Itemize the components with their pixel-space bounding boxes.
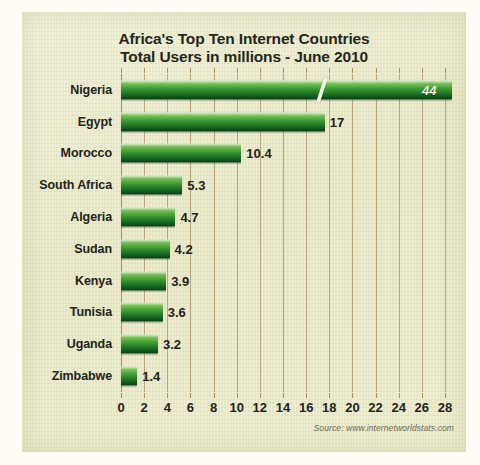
value-label-south-africa: 5.3 <box>187 178 205 193</box>
tick-bottom-0 <box>121 393 122 398</box>
bar-tunisia[interactable] <box>121 303 163 322</box>
bar-row: South Africa5.3 <box>121 169 445 201</box>
x-tick-label-10: 10 <box>229 400 243 415</box>
value-label-zimbabwe: 1.4 <box>142 369 160 384</box>
tick-bottom-16 <box>306 393 307 398</box>
bar-row: Tunisia3.6 <box>121 297 445 329</box>
tick-bottom-24 <box>399 393 400 398</box>
x-axis-tick-labels: 0246810121416182022242628 <box>121 400 445 418</box>
value-label-sudan: 4.2 <box>175 241 193 256</box>
x-tick-label-26: 26 <box>415 400 429 415</box>
bar-algeria[interactable] <box>121 208 175 227</box>
bar-row: Egypt17 <box>121 106 445 138</box>
category-label-sudan: Sudan <box>74 242 112 256</box>
tick-top-4 <box>167 68 168 73</box>
bar-row: Uganda3.2 <box>121 328 445 360</box>
category-label-morocco: Morocco <box>61 146 112 160</box>
bar-row: Kenya3.9 <box>121 265 445 297</box>
category-label-nigeria: Nigeria <box>70 83 112 97</box>
x-tick-label-28: 28 <box>438 400 452 415</box>
category-label-egypt: Egypt <box>78 115 112 129</box>
plot-area: Nigeria44Egypt17Morocco10.4South Africa5… <box>121 74 445 392</box>
x-tick-label-8: 8 <box>210 400 217 415</box>
tick-top-6 <box>190 68 191 73</box>
bar-row: Zimbabwe1.4 <box>121 360 445 392</box>
value-label-kenya: 3.9 <box>171 273 189 288</box>
category-label-uganda: Uganda <box>67 337 112 351</box>
chart-panel: Africa's Top Ten Internet Countries Tota… <box>22 12 466 452</box>
source-note: Source: www.internetworldstats.com <box>314 423 454 433</box>
x-tick-label-0: 0 <box>117 400 124 415</box>
chart-title: Africa's Top Ten Internet Countries Tota… <box>22 30 466 66</box>
category-label-kenya: Kenya <box>75 274 112 288</box>
tick-bottom-4 <box>167 393 168 398</box>
x-tick-label-16: 16 <box>299 400 313 415</box>
tick-top-20 <box>352 68 353 73</box>
bar-egypt[interactable] <box>121 112 325 131</box>
tick-top-16 <box>306 68 307 73</box>
category-label-south-africa: South Africa <box>39 178 112 192</box>
bar-row: Nigeria44 <box>121 74 445 106</box>
bar-zimbabwe[interactable] <box>121 367 137 386</box>
tick-top-22 <box>376 68 377 73</box>
tick-bottom-6 <box>190 393 191 398</box>
chart-title-line-1: Africa's Top Ten Internet Countries <box>22 30 466 48</box>
x-tick-label-20: 20 <box>345 400 359 415</box>
tick-bottom-22 <box>376 393 377 398</box>
tick-top-14 <box>283 68 284 73</box>
tick-bottom-12 <box>260 393 261 398</box>
x-tick-label-6: 6 <box>187 400 194 415</box>
bar-row: Morocco10.4 <box>121 138 445 170</box>
tick-top-8 <box>214 68 215 73</box>
chart-figure: Africa's Top Ten Internet Countries Tota… <box>0 0 480 465</box>
category-label-algeria: Algeria <box>70 210 112 224</box>
x-tick-label-4: 4 <box>164 400 171 415</box>
bar-nigeria[interactable] <box>121 80 452 99</box>
x-tick-label-2: 2 <box>141 400 148 415</box>
tick-top-18 <box>329 68 330 73</box>
tick-bottom-26 <box>422 393 423 398</box>
tick-top-24 <box>399 68 400 73</box>
bar-south-africa[interactable] <box>121 176 182 195</box>
tick-bottom-18 <box>329 393 330 398</box>
x-tick-label-22: 22 <box>368 400 382 415</box>
x-tick-label-12: 12 <box>253 400 267 415</box>
x-tick-label-18: 18 <box>322 400 336 415</box>
chart-title-line-2: Total Users in millions - June 2010 <box>22 48 466 66</box>
tick-top-26 <box>422 68 423 73</box>
value-label-uganda: 3.2 <box>163 337 181 352</box>
tick-bottom-28 <box>445 393 446 398</box>
tick-bottom-2 <box>144 393 145 398</box>
x-tick-label-14: 14 <box>276 400 290 415</box>
value-label-egypt: 17 <box>330 114 344 129</box>
tick-bottom-14 <box>283 393 284 398</box>
tick-top-2 <box>144 68 145 73</box>
gridline-28 <box>445 74 446 392</box>
bar-row: Algeria4.7 <box>121 201 445 233</box>
value-label-algeria: 4.7 <box>180 210 198 225</box>
tick-top-0 <box>121 68 122 73</box>
bar-kenya[interactable] <box>121 271 166 290</box>
value-label-morocco: 10.4 <box>246 146 271 161</box>
bar-uganda[interactable] <box>121 335 158 354</box>
value-label-nigeria: 44 <box>422 82 436 97</box>
tick-bottom-8 <box>214 393 215 398</box>
x-tick-label-24: 24 <box>391 400 405 415</box>
tick-top-12 <box>260 68 261 73</box>
tick-top-28 <box>445 68 446 73</box>
category-label-tunisia: Tunisia <box>70 305 112 319</box>
category-label-zimbabwe: Zimbabwe <box>52 369 112 383</box>
value-label-tunisia: 3.6 <box>168 305 186 320</box>
bar-morocco[interactable] <box>121 144 241 163</box>
tick-bottom-10 <box>237 393 238 398</box>
bar-row: Sudan4.2 <box>121 233 445 265</box>
tick-bottom-20 <box>352 393 353 398</box>
bar-sudan[interactable] <box>121 239 170 258</box>
tick-top-10 <box>237 68 238 73</box>
